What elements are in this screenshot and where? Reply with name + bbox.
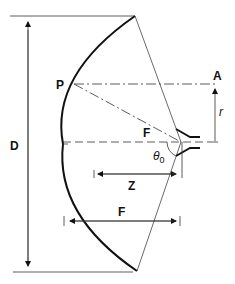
parabolic-reflector-diagram: D P A r F θ0 Z F — [0, 0, 235, 284]
angle-arc — [167, 142, 176, 156]
feed-horn-icon — [176, 129, 200, 156]
edge-ray-top — [135, 16, 181, 142]
angle-label: θ0 — [153, 149, 165, 165]
parabolic-dish — [61, 16, 137, 271]
focal-length-label: F — [118, 205, 125, 219]
offset-label: Z — [128, 179, 135, 193]
focal-ray — [74, 84, 181, 142]
focus-label: F — [143, 126, 150, 140]
radius-label: r — [219, 105, 224, 119]
point-p-label: P — [56, 78, 64, 92]
diameter-label: D — [10, 139, 19, 153]
point-a-label: A — [213, 69, 222, 83]
